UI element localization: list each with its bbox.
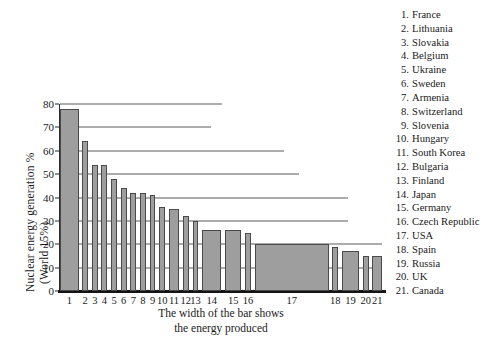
bar-1[interactable]: [60, 109, 79, 291]
bar-3[interactable]: [92, 165, 98, 291]
x-tick-label-18: 18: [330, 295, 341, 306]
y-tick-mark-0: [55, 291, 59, 292]
legend-item-number: 1.: [392, 8, 409, 22]
y-tick-label-0: 0: [49, 285, 55, 297]
legend-item-16: 16.Czech Republic: [392, 215, 492, 229]
legend-item-15: 15.Germany: [392, 201, 492, 215]
plot-area: 01020304050607080 1234567891011121314151…: [60, 104, 382, 291]
x-tick-label-2: 2: [83, 295, 88, 306]
legend-item-label: Belgium: [412, 49, 449, 63]
legend-item-number: 15.: [392, 201, 409, 215]
legend-item-label: Finland: [412, 174, 444, 188]
legend-item-number: 14.: [392, 188, 409, 202]
legend-item-label: Ukraine: [412, 63, 446, 77]
legend-item-label: Spain: [412, 243, 436, 257]
legend-item-10: 10.Hungary: [392, 132, 492, 146]
legend-item-number: 11.: [392, 146, 409, 160]
y-tick-label-80: 80: [43, 98, 54, 110]
bar-4[interactable]: [101, 165, 107, 291]
bar-5[interactable]: [111, 179, 117, 291]
x-tick-label-21: 21: [372, 295, 383, 306]
bar-2[interactable]: [82, 141, 88, 291]
legend-item-number: 8.: [392, 105, 409, 119]
legend-item-number: 10.: [392, 132, 409, 146]
y-tick-label-50: 50: [43, 168, 54, 180]
legend-item-12: 12.Bulgaria: [392, 160, 492, 174]
gridline-80: [60, 104, 222, 105]
y-axis-title: Nuclear energy generation % (World 15%): [6, 96, 46, 296]
legend-item-label: USA: [412, 229, 433, 243]
legend-item-17: 17.USA: [392, 229, 492, 243]
legend-item-label: UK: [412, 270, 427, 284]
gridline-70: [60, 127, 211, 128]
bar-11[interactable]: [169, 209, 179, 291]
y-tick-mark-50: [55, 174, 59, 175]
y-tick-label-60: 60: [43, 145, 54, 157]
x-tick-label-16: 16: [243, 295, 254, 306]
legend-item-label: Germany: [412, 201, 451, 215]
x-tick-label-19: 19: [345, 295, 356, 306]
legend-item-number: 20.: [392, 270, 409, 284]
x-tick-label-17: 17: [286, 295, 297, 306]
legend-item-19: 19.Russia: [392, 257, 492, 271]
legend-item-13: 13.Finland: [392, 174, 492, 188]
legend-item-21: 21.Canada: [392, 284, 492, 298]
legend-item-number: 19.: [392, 257, 409, 271]
legend-item-5: 5.Ukraine: [392, 63, 492, 77]
y-tick-mark-60: [55, 150, 59, 151]
bar-13[interactable]: [193, 221, 199, 291]
legend-item-3: 3.Slovakia: [392, 36, 492, 50]
bar-14[interactable]: [202, 230, 221, 291]
legend-item-label: South Korea: [412, 146, 465, 160]
y-tick-mark-20: [55, 244, 59, 245]
y-tick-mark-70: [55, 127, 59, 128]
legend-item-number: 21.: [392, 284, 409, 298]
legend-item-label: France: [412, 8, 441, 22]
bar-8[interactable]: [140, 193, 146, 291]
legend-item-label: Hungary: [412, 132, 449, 146]
legend-item-8: 8.Switzerland: [392, 105, 492, 119]
y-tick-mark-80: [55, 104, 59, 105]
bar-7[interactable]: [130, 193, 136, 291]
legend-item-18: 18.Spain: [392, 243, 492, 257]
legend-item-7: 7.Armenia: [392, 91, 492, 105]
bar-6[interactable]: [121, 188, 127, 291]
y-tick-label-70: 70: [43, 121, 54, 133]
y-tick-label-20: 20: [43, 238, 54, 250]
x-axis-caption: The width of the bar shows the energy pr…: [60, 306, 382, 335]
legend-item-number: 18.: [392, 243, 409, 257]
bar-21[interactable]: [372, 256, 382, 291]
legend-item-label: Canada: [412, 284, 444, 298]
bar-18[interactable]: [332, 247, 338, 291]
legend-item-label: Russia: [412, 257, 440, 271]
bar-12[interactable]: [183, 216, 189, 291]
legend-item-label: Sweden: [412, 77, 446, 91]
legend-item-number: 4.: [392, 49, 409, 63]
legend: 1.France2.Lithuania3.Slovakia4.Belgium5.…: [392, 8, 492, 298]
bar-17[interactable]: [255, 244, 329, 291]
nuclear-energy-bar-chart: Nuclear energy generation % (World 15%) …: [0, 0, 492, 342]
bar-20[interactable]: [363, 256, 369, 291]
x-tick-label-6: 6: [121, 295, 126, 306]
bar-9[interactable]: [150, 195, 156, 291]
x-tick-label-5: 5: [111, 295, 116, 306]
bar-19[interactable]: [342, 251, 359, 291]
bar-16[interactable]: [245, 233, 251, 291]
x-tick-label-7: 7: [131, 295, 136, 306]
x-tick-label-15: 15: [228, 295, 239, 306]
legend-item-1: 1.France: [392, 8, 492, 22]
bar-15[interactable]: [225, 230, 241, 291]
gridline-60: [60, 150, 284, 151]
legend-item-number: 5.: [392, 63, 409, 77]
legend-item-2: 2.Lithuania: [392, 22, 492, 36]
legend-item-label: Czech Republic: [412, 215, 479, 229]
x-tick-label-20: 20: [360, 295, 371, 306]
x-tick-label-11: 11: [169, 295, 179, 306]
y-tick-label-10: 10: [43, 262, 54, 274]
legend-item-label: Japan: [412, 188, 436, 202]
y-tick-mark-10: [55, 267, 59, 268]
legend-item-number: 12.: [392, 160, 409, 174]
bar-10[interactable]: [159, 207, 165, 291]
legend-item-6: 6.Sweden: [392, 77, 492, 91]
y-axis-title-line-1: Nuclear energy generation %: [24, 152, 36, 292]
